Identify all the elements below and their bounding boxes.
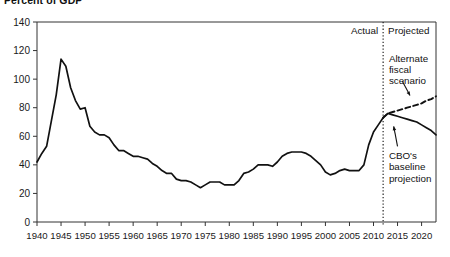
chart-annotations: AlternatefiscalscenarioCBO'sbaselineproj… [389,53,431,184]
plot-frame [37,22,436,222]
x-tick-label-1985: 1985 [243,230,264,241]
x-axis: 1940194519501955196019651970197519801985… [26,222,432,241]
chart-plot-area: 020406080100120140 194019451950195519601… [0,0,450,257]
data-series [37,59,436,188]
alternate-fiscal-scenario-line-1: Alternate [389,53,429,64]
cbo-baseline-projection-arrow [393,126,398,146]
x-tick-label-1940: 1940 [26,230,47,241]
y-axis: 020406080100120140 [13,17,37,228]
alternate-fiscal-scenario-line-3: scenario [389,75,427,86]
period-labels: ActualProjected [351,25,430,36]
y-tick-label-20: 20 [19,188,31,199]
x-tick-label-2000: 2000 [315,230,336,241]
x-tick-label-1990: 1990 [267,230,288,241]
x-tick-label-1965: 1965 [147,230,168,241]
x-tick-label-1995: 1995 [291,230,312,241]
x-tick-label-1960: 1960 [122,230,143,241]
x-tick-label-2005: 2005 [339,230,360,241]
y-tick-label-120: 120 [13,45,30,56]
y-tick-label-100: 100 [13,74,30,85]
x-tick-label-1975: 1975 [195,230,216,241]
y-tick-label-60: 60 [19,131,31,142]
period-label-actual: Actual [351,25,378,36]
x-tick-label-1980: 1980 [219,230,240,241]
cbo-baseline-projection-line-1: CBO's [389,150,417,161]
period-label-projected: Projected [388,25,429,36]
x-tick-label-1955: 1955 [98,230,119,241]
series-line-baseline [37,59,436,188]
y-tick-label-0: 0 [24,217,30,228]
x-tick-label-1950: 1950 [74,230,95,241]
y-tick-label-140: 140 [13,17,30,28]
y-tick-label-40: 40 [19,159,31,170]
alternate-fiscal-scenario-line-2: fiscal [389,64,411,75]
x-tick-label-1945: 1945 [50,230,71,241]
x-tick-label-2020: 2020 [411,230,432,241]
y-tick-label-80: 80 [19,102,31,113]
cbo-baseline-projection-line-3: projection [389,173,431,184]
cbo-baseline-projection-line-2: baseline [389,161,426,172]
x-tick-label-1970: 1970 [171,230,192,241]
debt-gdp-chart: Percent of GDP 020406080100120140 194019… [0,0,450,257]
x-tick-label-2015: 2015 [387,230,408,241]
x-tick-label-2010: 2010 [363,230,384,241]
